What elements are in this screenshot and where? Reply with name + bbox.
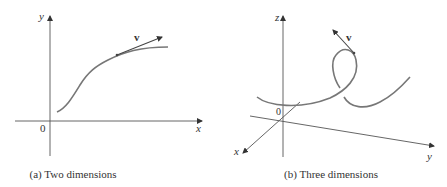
x-axis-3d [243,102,300,153]
y-axis-label-3d: y [426,150,432,162]
y-axis-label: y [38,10,44,22]
curve [57,47,168,112]
space-curve [257,50,357,106]
caption-a: (a) Two dimensions [29,168,116,181]
x-axis-label-3d: x [233,145,239,157]
tangent-vector [117,37,162,55]
panel-two-dimensions: y 0 x v (a) Two dimensions [15,10,202,181]
vector-label-3d: v [346,31,352,43]
figure-canvas: y 0 x v (a) Two dimensions z 0 x y v (b)… [0,0,447,187]
vector-label: v [134,31,140,43]
x-axis-label: x [195,122,201,134]
tangent-point [116,54,119,57]
caption-b: (b) Three dimensions [284,168,378,181]
y-axis-3d [250,116,434,146]
origin-label-3d: 0 [276,106,281,117]
space-curve-tail [344,77,410,107]
z-axis-label: z [274,11,280,23]
tangent-point-3d [353,52,356,55]
origin-label: 0 [40,122,46,134]
panel-three-dimensions: z 0 x y v (b) Three dimensions [233,11,434,181]
